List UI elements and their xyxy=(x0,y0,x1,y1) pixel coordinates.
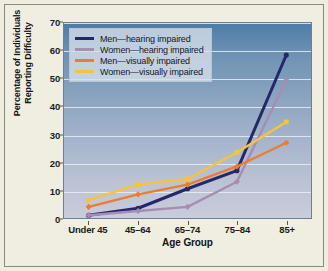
legend-item-label: Women—hearing impaired xyxy=(100,45,204,55)
chart-figure: Percentage of Individuals Reporting Diff… xyxy=(0,0,328,271)
data-point-marker xyxy=(135,191,141,197)
data-point-marker xyxy=(86,212,92,218)
legend-color-swatch xyxy=(75,37,94,40)
y-axis-title-line1: Percentage of Individuals xyxy=(12,10,22,117)
legend-item-label: Men—visually impaired xyxy=(100,56,190,66)
x-axis-tick-mark xyxy=(237,221,238,225)
legend-color-swatch xyxy=(75,48,94,51)
x-axis-tick-label: 85+ xyxy=(279,224,295,235)
legend-item[interactable]: Men—hearing impaired xyxy=(75,33,204,44)
data-point-marker xyxy=(86,204,92,210)
x-axis-tick-label: Under 45 xyxy=(68,224,107,235)
legend-color-swatch xyxy=(75,59,94,62)
y-axis-tick-mark xyxy=(59,78,63,79)
x-axis-title: Age Group xyxy=(63,237,312,248)
y-axis-tick-mark xyxy=(59,134,63,135)
x-axis-tick-mark xyxy=(88,221,89,225)
data-point-marker xyxy=(86,198,91,203)
y-axis-tick-mark xyxy=(59,106,63,107)
data-point-marker xyxy=(235,150,240,155)
y-axis-tick-mark xyxy=(59,162,63,163)
data-point-marker xyxy=(136,182,141,187)
legend-item[interactable]: Women—hearing impaired xyxy=(75,44,204,55)
data-point-marker xyxy=(185,177,190,182)
data-point-marker xyxy=(284,52,289,57)
legend-item[interactable]: Women—visually impaired xyxy=(75,66,204,77)
legend-item[interactable]: Men—visually impaired xyxy=(75,55,204,66)
y-axis-tick-mark xyxy=(59,190,63,191)
x-axis-tick-mark xyxy=(188,221,189,225)
legend-item-label: Women—visually impaired xyxy=(100,67,203,77)
series-line xyxy=(89,143,287,207)
x-axis-tick-mark xyxy=(138,221,139,225)
x-axis-tick-label: 65–74 xyxy=(175,224,200,235)
legend-color-swatch xyxy=(75,70,94,73)
y-axis-tick-mark xyxy=(59,22,63,23)
y-axis-tick-labels: 010203040506070 xyxy=(30,22,60,219)
data-point-marker xyxy=(284,120,289,125)
y-axis-tick-mark xyxy=(59,219,63,220)
x-axis-tick-mark xyxy=(287,221,288,225)
x-axis-tick-label: 45–64 xyxy=(125,224,150,235)
chart-legend: Men—hearing impairedWomen—hearing impair… xyxy=(69,28,212,82)
series-line xyxy=(89,80,287,215)
x-axis-tick-label: 75–84 xyxy=(225,224,250,235)
plot-area: Men—hearing impairedWomen—hearing impair… xyxy=(63,22,312,219)
x-axis-tick-labels: Under 4545–6465–7475–8485+ xyxy=(63,221,312,237)
legend-item-label: Men—hearing impaired xyxy=(100,34,191,44)
y-axis-tick-mark xyxy=(59,50,63,51)
